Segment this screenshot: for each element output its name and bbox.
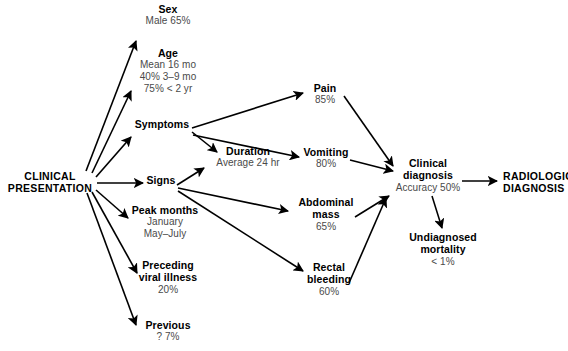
node-label-clinical-diagnosis-line1: Clinical	[389, 157, 467, 169]
node-label-previous: Previous	[130, 319, 206, 331]
edge-vomiting-to-clinical-diagnosis	[350, 160, 393, 171]
edge-symptoms-to-pain	[192, 93, 303, 128]
node-sub-preceding-percent: 20%	[128, 284, 208, 296]
node-previous[interactable]: Previous ? 7%	[130, 319, 206, 343]
node-label-rectal-line1: Rectal	[298, 261, 360, 273]
node-undiagnosed-mortality[interactable]: Undiagnosed mortality < 1%	[396, 231, 490, 268]
node-clinical-diagnosis[interactable]: Clinical diagnosis Accuracy 50%	[389, 157, 467, 194]
node-label-clinical-presentation-line1: CLINICAL	[4, 170, 96, 182]
node-sub-age-3-9-mo: 40% 3–9 mo	[120, 71, 216, 83]
node-sub-peak-months-january: January	[125, 216, 205, 228]
edge-cp-to-age	[92, 91, 131, 173]
node-label-clinical-diagnosis-line2: diagnosis	[389, 169, 467, 181]
node-sub-sex-male-percent: Male 65%	[128, 15, 208, 27]
node-sub-previous-percent: ? 7%	[130, 331, 206, 343]
edge-clinical-diagnosis-to-undiagnosed-mortality	[432, 196, 442, 228]
edge-abdominal-mass-to-clinical-diagnosis	[355, 196, 389, 217]
node-sub-pain-percent: 85%	[305, 94, 345, 106]
node-duration[interactable]: Duration Average 24 hr	[203, 145, 293, 169]
node-pain[interactable]: Pain 85%	[305, 82, 345, 106]
node-sub-abdominal-percent: 65%	[293, 221, 359, 233]
node-sub-peak-months-may-july: May–July	[125, 228, 205, 240]
node-label-duration: Duration	[203, 145, 293, 157]
edge-cp-to-symptoms	[96, 137, 131, 177]
node-label-abdominal-line2: mass	[293, 208, 359, 220]
node-label-undiagnosed-line1: Undiagnosed	[396, 231, 490, 243]
node-label-age: Age	[120, 47, 216, 59]
node-label-preceding-line1: Preceding	[128, 259, 208, 271]
node-label-rectal-line2: bleeding	[298, 273, 360, 285]
node-symptoms[interactable]: Symptoms	[131, 118, 193, 130]
node-label-clinical-presentation-line2: PRESENTATION	[4, 182, 96, 194]
node-sub-vomiting-percent: 80%	[299, 158, 353, 170]
node-age[interactable]: Age Mean 16 mo 40% 3–9 mo 75% < 2 yr	[120, 47, 216, 95]
node-label-abdominal-line1: Abdominal	[293, 196, 359, 208]
node-label-pain: Pain	[305, 82, 345, 94]
node-sub-undiagnosed-percent: < 1%	[396, 256, 490, 268]
node-label-symptoms: Symptoms	[131, 118, 193, 130]
node-sub-age-under-2-yr: 75% < 2 yr	[120, 83, 216, 95]
node-preceding-viral-illness[interactable]: Preceding viral illness 20%	[128, 259, 208, 296]
node-rectal-bleeding[interactable]: Rectal bleeding 60%	[298, 261, 360, 298]
node-label-sex: Sex	[128, 3, 208, 15]
node-vomiting[interactable]: Vomiting 80%	[299, 146, 353, 170]
node-label-radiologic-line1: RADIOLOGIC	[503, 170, 567, 182]
node-radiologic-diagnosis[interactable]: RADIOLOGIC DIAGNOSIS	[503, 170, 567, 195]
node-label-preceding-line2: viral illness	[128, 271, 208, 283]
node-label-undiagnosed-line2: mortality	[396, 243, 490, 255]
node-label-radiologic-line2: DIAGNOSIS	[503, 182, 567, 194]
node-abdominal-mass[interactable]: Abdominal mass 65%	[293, 196, 359, 233]
node-label-vomiting: Vomiting	[299, 146, 353, 158]
node-signs[interactable]: Signs	[142, 174, 180, 186]
node-clinical-presentation[interactable]: CLINICAL PRESENTATION	[4, 170, 96, 195]
node-sub-age-mean: Mean 16 mo	[120, 59, 216, 71]
node-sub-rectal-percent: 60%	[298, 286, 360, 298]
node-label-peak-months: Peak months	[125, 204, 205, 216]
node-peak-months[interactable]: Peak months January May–July	[125, 204, 205, 240]
node-sub-clinical-diagnosis-accuracy: Accuracy 50%	[389, 182, 467, 194]
node-label-signs: Signs	[142, 174, 180, 186]
node-sub-duration-average: Average 24 hr	[203, 157, 293, 169]
flowchart-diagram: CLINICAL PRESENTATION Sex Male 65% Age M…	[0, 0, 568, 351]
node-sex[interactable]: Sex Male 65%	[128, 3, 208, 27]
edge-cp-to-peak-months	[96, 190, 128, 218]
edge-signs-to-duration	[177, 168, 204, 185]
